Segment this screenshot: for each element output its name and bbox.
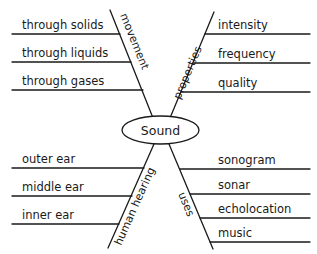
- movement-item-1: through solids: [22, 18, 104, 32]
- movement-item-2: through liquids: [22, 46, 108, 60]
- properties-item-3: quality: [218, 76, 258, 90]
- human-hearing-label: human hearing: [112, 165, 158, 247]
- uses-item-1: sonogram: [218, 153, 276, 167]
- human-hearing-item-3: inner ear: [22, 208, 74, 222]
- uses-item-4: music: [218, 226, 252, 240]
- uses-item-2: sonar: [218, 178, 250, 192]
- uses-item-3: echolocation: [218, 202, 291, 216]
- branch-human-hearing: outer ear middle ear inner ear human hea…: [12, 144, 158, 248]
- branch-movement: through solids through liquids through g…: [12, 10, 153, 118]
- human-hearing-item-2: middle ear: [22, 180, 84, 194]
- branch-properties: intensity frequency quality properties: [170, 12, 310, 118]
- center-label: Sound: [141, 123, 180, 138]
- sound-concept-map: through solids through liquids through g…: [0, 0, 317, 254]
- branch-uses: sonogram sonar echolocation music uses: [169, 144, 310, 249]
- movement-item-3: through gases: [22, 74, 104, 88]
- properties-item-1: intensity: [218, 18, 268, 32]
- properties-item-2: frequency: [218, 47, 276, 61]
- center-node: Sound: [122, 116, 199, 144]
- human-hearing-item-1: outer ear: [22, 152, 75, 166]
- uses-spine: [169, 144, 213, 249]
